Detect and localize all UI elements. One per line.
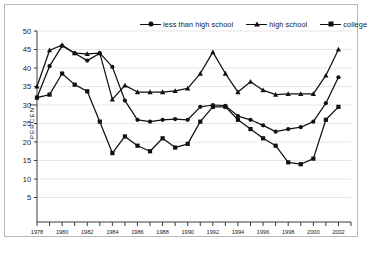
svg-text:45: 45 — [23, 45, 31, 54]
svg-text:50: 50 — [23, 27, 31, 36]
svg-text:1982: 1982 — [81, 229, 93, 235]
svg-text:1990: 1990 — [181, 229, 193, 235]
axis-lines — [37, 31, 351, 222]
svg-text:2002: 2002 — [332, 229, 344, 235]
y-axis-ticks: 5101520253035404550 — [23, 27, 37, 203]
x-axis-ticks: 1978198019821984198619881990199219941996… — [31, 222, 351, 235]
svg-text:25: 25 — [23, 119, 31, 128]
chart-frame: less than high school high school colleg… — [4, 4, 358, 237]
svg-text:5: 5 — [27, 193, 31, 202]
svg-text:2000: 2000 — [307, 229, 319, 235]
chart-plot-area: 5101520253035404550 19781980198219841986… — [5, 5, 359, 238]
data-series-layer — [34, 42, 341, 166]
svg-text:1992: 1992 — [207, 229, 219, 235]
svg-text:20: 20 — [23, 138, 31, 147]
svg-text:1988: 1988 — [156, 229, 168, 235]
svg-text:1978: 1978 — [31, 229, 43, 235]
svg-text:1994: 1994 — [232, 229, 244, 235]
svg-text:1980: 1980 — [56, 229, 68, 235]
svg-text:1998: 1998 — [282, 229, 294, 235]
svg-text:1986: 1986 — [131, 229, 143, 235]
svg-text:40: 40 — [23, 64, 31, 73]
svg-text:35: 35 — [23, 82, 31, 91]
gridlines — [37, 31, 351, 198]
svg-text:1996: 1996 — [257, 229, 269, 235]
svg-text:15: 15 — [23, 156, 31, 165]
svg-text:1984: 1984 — [106, 229, 118, 235]
svg-text:30: 30 — [23, 101, 31, 110]
svg-text:10: 10 — [23, 175, 31, 184]
